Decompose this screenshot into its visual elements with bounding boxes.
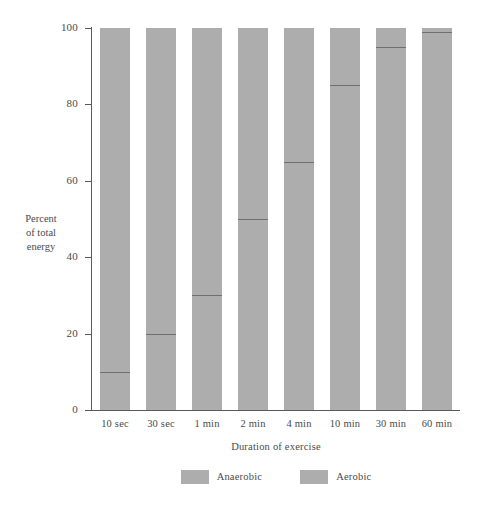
y-axis-tick: [85, 104, 91, 105]
y-axis-tick: [85, 257, 91, 258]
x-axis-title: Duration of exercise: [92, 441, 460, 453]
bar-1-min: [192, 28, 222, 410]
bar-60-min: [422, 28, 452, 410]
legend-label: Aerobic: [336, 471, 371, 483]
y-axis-tick-label: 20: [16, 328, 78, 339]
y-axis-tick: [85, 28, 91, 29]
legend-swatch: [181, 470, 209, 484]
bar-30-min: [376, 28, 406, 410]
bar-segment-anaerobic: [100, 372, 130, 410]
y-axis-tick: [85, 334, 91, 335]
y-axis-title: Percentof totalenergy: [6, 212, 76, 254]
x-axis-line: [91, 410, 460, 411]
y-axis-title-line: energy: [6, 240, 76, 254]
y-axis-title-line: of total: [6, 226, 76, 240]
plot-area: [92, 28, 460, 410]
bar-segment-anaerobic: [284, 162, 314, 410]
bar-segment-anaerobic: [422, 32, 452, 410]
bar-2-min: [238, 28, 268, 410]
chart-figure: 020406080100 10 sec30 sec1 min2 min4 min…: [0, 0, 479, 508]
bar-segment-anaerobic: [376, 47, 406, 410]
legend-label: Anaerobic: [217, 471, 263, 483]
y-axis-tick-label: 80: [16, 98, 78, 109]
bar-segment-anaerobic: [146, 334, 176, 410]
y-axis-tick-label: 0: [16, 404, 78, 415]
legend-entry-anaerobic: Anaerobic: [181, 470, 263, 484]
bar-10-min: [330, 28, 360, 410]
y-axis-tick: [85, 181, 91, 182]
bar-segment-anaerobic: [238, 219, 268, 410]
y-axis-tick-label: 100: [16, 22, 78, 33]
bar-30-sec: [146, 28, 176, 410]
bar-10-sec: [100, 28, 130, 410]
y-axis-tick: [85, 410, 91, 411]
legend-entry-aerobic: Aerobic: [300, 470, 371, 484]
bar-4-min: [284, 28, 314, 410]
y-axis-title-line: Percent: [6, 212, 76, 226]
bar-segment-anaerobic: [330, 85, 360, 410]
bar-segment-anaerobic: [192, 295, 222, 410]
chart-legend: AnaerobicAerobic: [92, 470, 460, 484]
y-axis-tick-label: 60: [16, 175, 78, 186]
x-axis-tick-label: 60 min: [402, 418, 472, 430]
legend-swatch: [300, 470, 328, 484]
